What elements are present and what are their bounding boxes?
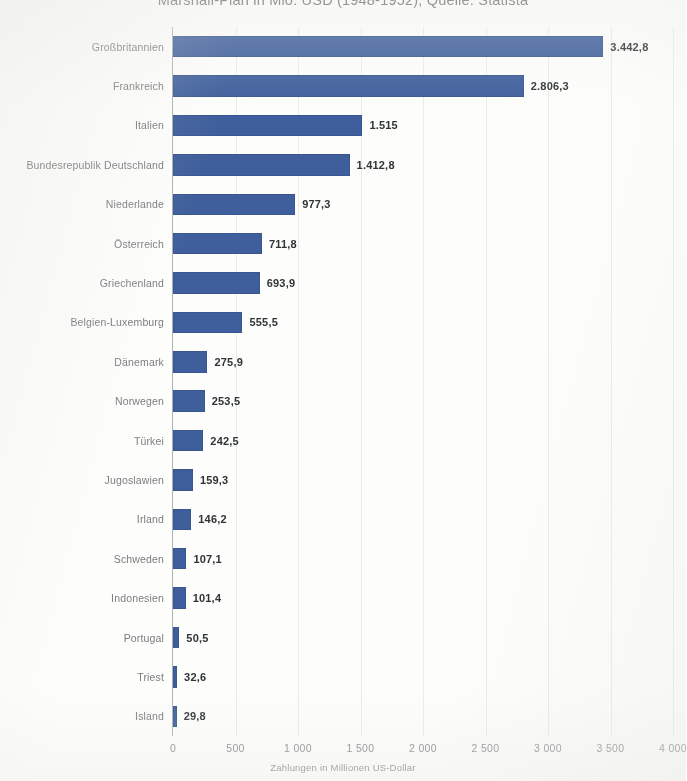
bar[interactable] — [173, 430, 203, 451]
chart-title-band: Marshall-Plan in Mio. USD (1948-1952), Q… — [0, 0, 686, 12]
bar-value-label: 29,8 — [184, 710, 206, 722]
category-label: Türkei — [0, 435, 164, 447]
bar-value-label: 977,3 — [302, 198, 331, 210]
bar-value-label: 693,9 — [267, 277, 296, 289]
bar[interactable] — [173, 469, 193, 490]
category-label: Großbritannien — [0, 41, 164, 53]
plot-area: Großbritannien3.442,8Frankreich2.806,3It… — [173, 27, 673, 736]
bar-value-label: 555,5 — [249, 316, 278, 328]
bar-row: Österreich711,8 — [173, 233, 673, 254]
bar-row: Indonesien101,4 — [173, 587, 673, 608]
category-label: Niederlande — [0, 198, 164, 210]
bar-row: Triest32,6 — [173, 666, 673, 687]
bar-row: Portugal50,5 — [173, 627, 673, 648]
x-axis-tick-label: 4 000 — [659, 742, 687, 754]
x-axis-tick-label: 2 500 — [472, 742, 500, 754]
bar[interactable] — [173, 36, 603, 57]
bar-value-label: 50,5 — [186, 632, 208, 644]
category-label: Frankreich — [0, 80, 164, 92]
x-axis-caption: Zahlungen in Millionen US-Dollar — [0, 762, 686, 773]
category-label: Island — [0, 710, 164, 722]
category-label: Dänemark — [0, 356, 164, 368]
category-label: Schweden — [0, 553, 164, 565]
bar-value-label: 32,6 — [184, 671, 206, 683]
bar[interactable] — [173, 509, 191, 530]
bar-value-label: 159,3 — [200, 474, 229, 486]
bar-row: Großbritannien3.442,8 — [173, 36, 673, 57]
gridline — [673, 27, 674, 736]
bar-row: Niederlande977,3 — [173, 194, 673, 215]
bar-row: Belgien-Luxemburg555,5 — [173, 312, 673, 333]
x-axis-tick-label: 500 — [226, 742, 244, 754]
bar-row: Jugoslawien159,3 — [173, 469, 673, 490]
bar-value-label: 242,5 — [210, 435, 239, 447]
page-title: Marshall-Plan in Mio. USD (1948-1952), Q… — [0, 0, 686, 8]
bar[interactable] — [173, 587, 186, 608]
bar-value-label: 1.412,8 — [357, 159, 395, 171]
x-axis: 05001 0001 5002 0002 5003 0003 5004 000 — [173, 742, 673, 758]
bar-row: Griechenland693,9 — [173, 272, 673, 293]
bar-value-label: 2.806,3 — [531, 80, 569, 92]
category-label: Bundesrepublik Deutschland — [0, 159, 164, 171]
x-axis-tick-label: 3 500 — [597, 742, 625, 754]
category-label: Irland — [0, 513, 164, 525]
category-label: Portugal — [0, 632, 164, 644]
bar-row: Irland146,2 — [173, 509, 673, 530]
bar[interactable] — [173, 154, 350, 175]
bar-row: Norwegen253,5 — [173, 390, 673, 411]
bar-row: Italien1.515 — [173, 115, 673, 136]
x-axis-tick-label: 1 500 — [347, 742, 375, 754]
category-label: Italien — [0, 119, 164, 131]
bar[interactable] — [173, 75, 524, 96]
bar-value-label: 1.515 — [369, 119, 398, 131]
bar-value-label: 146,2 — [198, 513, 227, 525]
bar[interactable] — [173, 666, 177, 687]
category-label: Jugoslawien — [0, 474, 164, 486]
bar[interactable] — [173, 115, 362, 136]
bar-row: Island29,8 — [173, 706, 673, 727]
category-label: Indonesien — [0, 592, 164, 604]
bar-row: Dänemark275,9 — [173, 351, 673, 372]
x-axis-tick-label: 0 — [170, 742, 176, 754]
bar[interactable] — [173, 312, 242, 333]
bar[interactable] — [173, 272, 260, 293]
category-label: Triest — [0, 671, 164, 683]
category-label: Norwegen — [0, 395, 164, 407]
bar[interactable] — [173, 233, 262, 254]
x-axis-tick-label: 3 000 — [534, 742, 562, 754]
bar[interactable] — [173, 548, 186, 569]
bar-value-label: 711,8 — [269, 238, 297, 250]
category-label: Belgien-Luxemburg — [0, 316, 164, 328]
bar-value-label: 3.442,8 — [610, 41, 648, 53]
x-axis-tick-label: 1 000 — [284, 742, 312, 754]
bar-value-label: 101,4 — [193, 592, 222, 604]
bar[interactable] — [173, 390, 205, 411]
bar[interactable] — [173, 627, 179, 648]
category-label: Österreich — [0, 238, 164, 250]
bar-value-label: 107,1 — [193, 553, 222, 565]
bar[interactable] — [173, 706, 177, 727]
bar-row: Bundesrepublik Deutschland1.412,8 — [173, 154, 673, 175]
bar[interactable] — [173, 351, 207, 372]
bar[interactable] — [173, 194, 295, 215]
bar-row: Türkei242,5 — [173, 430, 673, 451]
bar-row: Frankreich2.806,3 — [173, 75, 673, 96]
bar-row: Schweden107,1 — [173, 548, 673, 569]
x-axis-tick-label: 2 000 — [409, 742, 437, 754]
bar-value-label: 253,5 — [212, 395, 241, 407]
bar-value-label: 275,9 — [214, 356, 243, 368]
category-label: Griechenland — [0, 277, 164, 289]
